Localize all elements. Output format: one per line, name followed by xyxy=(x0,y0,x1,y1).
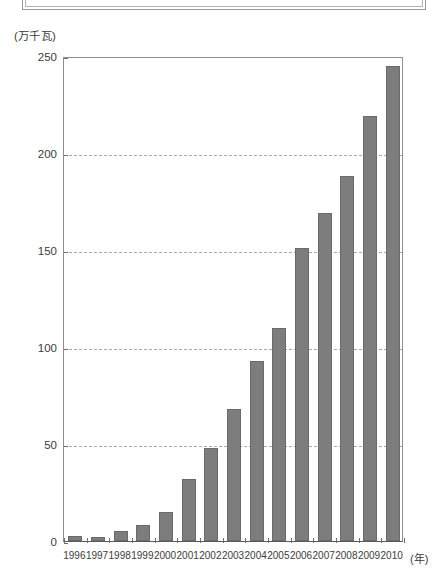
x-tick-label: 2003 xyxy=(222,550,244,561)
plot-area xyxy=(63,57,403,542)
bar xyxy=(182,479,196,541)
bar xyxy=(136,525,150,541)
x-tick-label: 2007 xyxy=(313,550,335,561)
y-tick-label: 250 xyxy=(17,51,57,63)
y-tick-mark xyxy=(64,349,68,350)
x-tick-label: 2010 xyxy=(381,550,403,561)
bar xyxy=(68,536,82,541)
y-tick-label: 50 xyxy=(17,439,57,451)
y-axis-unit-label: (万千瓦) xyxy=(14,27,56,43)
y-tick-mark xyxy=(64,155,68,156)
x-tick-label: 2002 xyxy=(199,550,221,561)
x-tick-label: 2005 xyxy=(267,550,289,561)
bar xyxy=(272,328,286,541)
y-tick-mark xyxy=(64,58,68,59)
bar xyxy=(295,248,309,541)
bar xyxy=(91,537,105,541)
x-tick-label: 2000 xyxy=(154,550,176,561)
x-tick-label: 1999 xyxy=(131,550,153,561)
bar xyxy=(159,512,173,541)
bar xyxy=(227,409,241,541)
x-tick-label: 1998 xyxy=(109,550,131,561)
x-tick-label: 1997 xyxy=(86,550,108,561)
gridline xyxy=(64,155,402,156)
x-tick-label: 2009 xyxy=(358,550,380,561)
x-tick-label: 2001 xyxy=(177,550,199,561)
y-tick-label: 150 xyxy=(17,245,57,257)
bar-chart: (万千瓦) 050100150200250 199619971998199920… xyxy=(0,0,447,581)
y-tick-mark xyxy=(64,252,68,253)
x-axis-unit-label: (年) xyxy=(410,550,428,566)
y-tick-label: 200 xyxy=(17,148,57,160)
y-tick-label: 0 xyxy=(17,536,57,548)
y-tick-label: 100 xyxy=(17,342,57,354)
x-axis-labels-layer: 1996199719981999200020012002200320042005… xyxy=(63,542,403,581)
bar xyxy=(250,361,264,541)
bar xyxy=(363,116,377,541)
bar xyxy=(318,213,332,541)
x-tick-mark xyxy=(404,538,405,543)
x-tick-label: 2008 xyxy=(335,550,357,561)
bar xyxy=(204,448,218,541)
bar xyxy=(114,531,128,541)
x-tick-label: 1996 xyxy=(63,550,85,561)
bar xyxy=(340,176,354,541)
x-tick-label: 2004 xyxy=(245,550,267,561)
bar xyxy=(386,66,400,541)
x-tick-label: 2006 xyxy=(290,550,312,561)
y-tick-mark xyxy=(64,446,68,447)
